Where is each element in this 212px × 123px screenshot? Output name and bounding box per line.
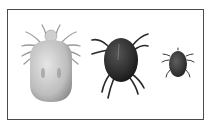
pale-mite-illustration [18,24,84,104]
dark-mite-illustration [88,30,154,102]
small-mite-illustration [160,46,196,82]
